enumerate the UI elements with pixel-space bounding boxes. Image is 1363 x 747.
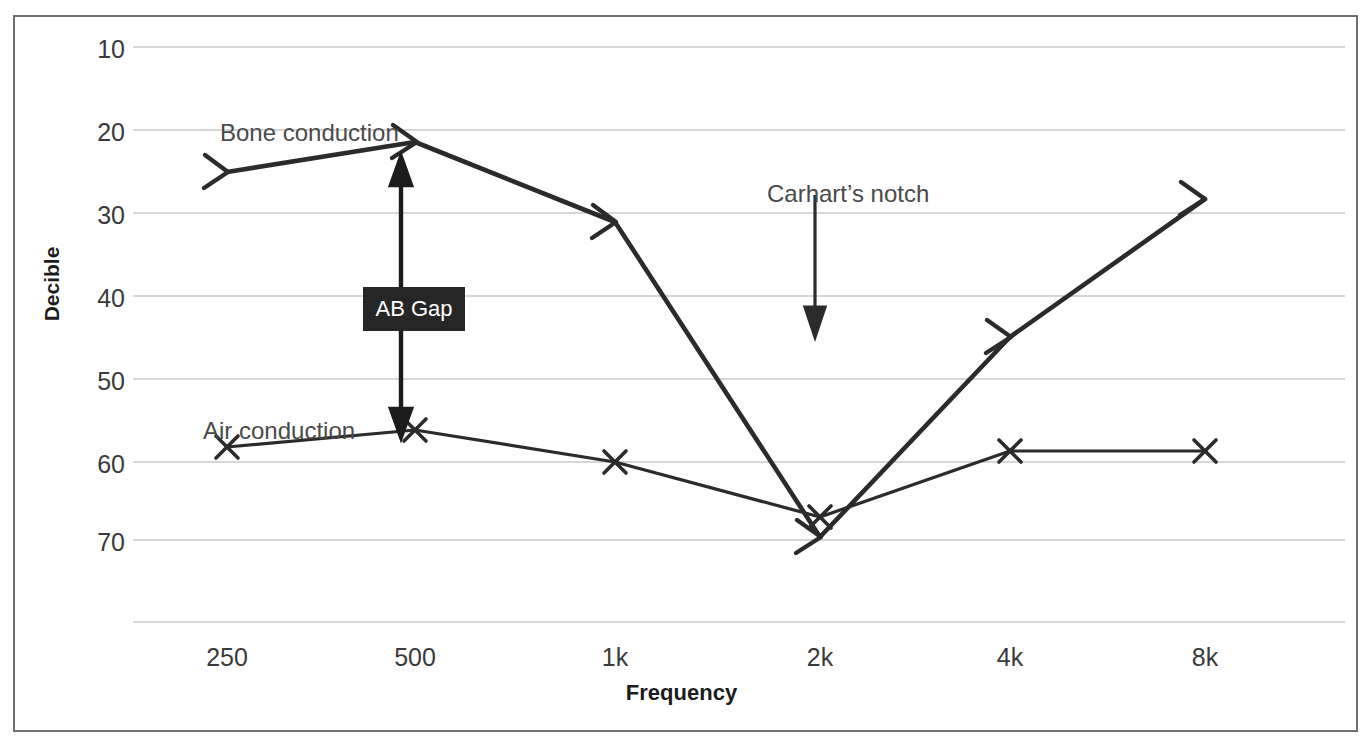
- ab-gap-label: AB Gap: [363, 287, 465, 331]
- y-tick-label-60: 60: [80, 450, 125, 479]
- x-tick-label-250: 250: [167, 643, 287, 672]
- y-tick-label-30: 30: [80, 201, 125, 230]
- bone-marker-250: [204, 155, 228, 188]
- x-tick-label-1k: 1k: [555, 643, 675, 672]
- audiogram-plot: [15, 17, 1356, 730]
- air-conduction-label: Air conduction: [203, 417, 355, 445]
- series-bone-conduction: [227, 142, 1205, 537]
- carhart-notch-label: Carhart’s notch: [767, 180, 929, 208]
- x-axis-title: Frequency: [0, 680, 1363, 706]
- bone-conduction-label: Bone conduction: [220, 119, 399, 147]
- ab-gap-arrowhead-up: [391, 157, 411, 185]
- x-tick-label-2k: 2k: [760, 643, 880, 672]
- y-tick-label-50: 50: [80, 367, 125, 396]
- carhart-notch-arrow: [805, 195, 825, 337]
- y-tick-label-70: 70: [80, 528, 125, 557]
- carhart-arrowhead: [805, 307, 825, 337]
- x-tick-label-8k: 8k: [1145, 643, 1265, 672]
- y-tick-label-20: 20: [80, 118, 125, 147]
- x-tick-label-500: 500: [355, 643, 475, 672]
- bone-marker-1k: [592, 205, 616, 238]
- x-tick-label-4k: 4k: [950, 643, 1070, 672]
- y-tick-label-10: 10: [80, 35, 125, 64]
- bone-conduction-markers: [204, 125, 1205, 553]
- y-axis-title: Decible: [40, 224, 64, 344]
- air-marker-2k: [809, 506, 831, 528]
- series-air-conduction: [227, 430, 1205, 517]
- air-conduction-line: [227, 430, 1205, 517]
- chart-frame: 10 20 30 40 50 60 70 Decible 250 500 1k …: [13, 15, 1358, 732]
- audiogram-page: 10 20 30 40 50 60 70 Decible 250 500 1k …: [0, 0, 1363, 747]
- bone-conduction-line: [227, 142, 1205, 537]
- bone-marker-2k: [796, 520, 821, 553]
- y-tick-label-40: 40: [80, 284, 125, 313]
